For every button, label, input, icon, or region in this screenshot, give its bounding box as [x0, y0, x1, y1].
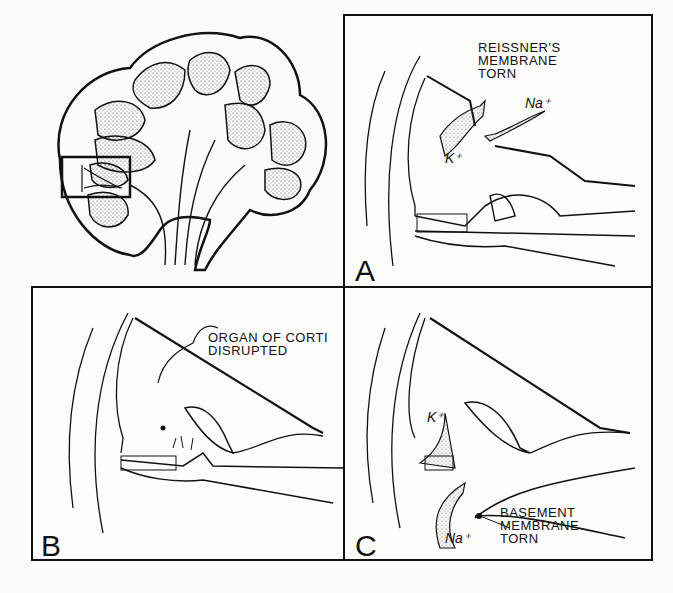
panel-letter-c: C [355, 531, 377, 561]
ion-label-k: K⁺ [445, 151, 461, 165]
annotation-reissners-membrane-torn: REISSNER'S MEMBRANE TORN [478, 41, 561, 80]
panel-a: REISSNER'S MEMBRANE TORN Na⁺ K⁺ A [343, 14, 653, 288]
annotation-line: TORN [500, 532, 579, 545]
panel-c: K⁺ Na⁺ BASEMENT MEMBRANE TORN C [343, 286, 653, 561]
panel-letter-b: B [41, 531, 61, 561]
annotation-basement-membrane-torn: BASEMENT MEMBRANE TORN [500, 506, 579, 545]
annotation-line: TORN [478, 67, 561, 80]
annotation-organ-of-corti-disrupted: ORGAN OF CORTI DISRUPTED [208, 331, 328, 357]
panel-letter-a: A [355, 256, 375, 286]
panel-b: ORGAN OF CORTI DISRUPTED B [31, 286, 345, 561]
annotation-line: DISRUPTED [208, 344, 328, 357]
ion-label-na: Na⁺ [525, 96, 550, 110]
ion-label-na: Na⁺ [445, 531, 470, 545]
ion-label-k: K⁺ [427, 410, 443, 424]
